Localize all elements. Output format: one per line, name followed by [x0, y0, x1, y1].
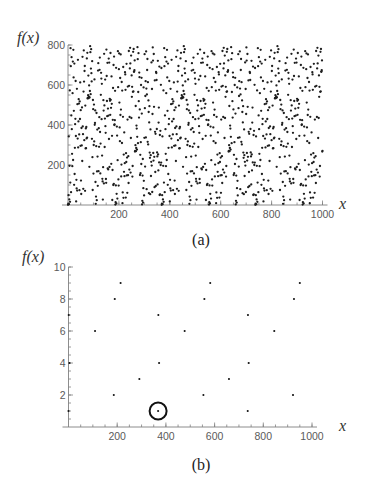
data-point — [120, 53, 122, 55]
data-point — [80, 109, 82, 111]
data-point — [214, 163, 216, 165]
data-point — [271, 104, 273, 106]
data-point — [194, 72, 196, 74]
data-point — [152, 46, 154, 48]
data-point — [197, 146, 199, 148]
data-point — [71, 128, 73, 130]
data-point — [100, 94, 102, 96]
data-point — [140, 163, 142, 165]
data-point — [82, 133, 84, 135]
data-point — [67, 194, 69, 196]
data-point — [247, 156, 249, 158]
data-point — [90, 67, 92, 69]
y-tick-label: 4 — [60, 357, 66, 369]
data-point — [239, 87, 241, 89]
data-point — [159, 130, 161, 132]
data-point — [117, 184, 119, 186]
data-point — [289, 180, 291, 182]
data-point — [175, 106, 177, 108]
data-point — [270, 80, 272, 82]
data-point — [76, 187, 78, 189]
data-point — [116, 134, 118, 136]
data-point — [309, 116, 311, 118]
data-point — [160, 67, 162, 69]
data-point — [149, 193, 151, 195]
data-point — [283, 199, 285, 201]
data-point — [247, 410, 249, 412]
data-point — [248, 133, 250, 135]
data-point — [282, 181, 284, 183]
data-point — [256, 201, 258, 203]
data-point — [147, 143, 149, 145]
data-point — [194, 118, 196, 120]
data-point — [154, 131, 156, 133]
data-point — [247, 106, 249, 108]
data-point — [276, 96, 278, 98]
data-point — [250, 155, 252, 157]
data-point — [291, 78, 293, 80]
data-point — [90, 72, 92, 74]
data-point — [309, 191, 311, 193]
data-point — [221, 50, 223, 52]
caption-b: (b) — [192, 456, 211, 474]
data-point — [232, 76, 234, 78]
data-point — [158, 362, 160, 364]
data-point — [235, 174, 237, 176]
data-point — [148, 105, 150, 107]
data-point — [277, 48, 279, 50]
x-tick-label: 200 — [110, 208, 128, 220]
data-point — [78, 189, 80, 191]
data-point — [231, 52, 233, 54]
data-point — [127, 155, 129, 157]
data-point — [203, 114, 205, 116]
data-point — [114, 119, 116, 121]
data-point — [281, 122, 283, 124]
data-point — [295, 57, 297, 59]
data-point — [98, 146, 100, 148]
data-point — [204, 103, 206, 105]
data-point — [300, 183, 302, 185]
data-point — [236, 180, 238, 182]
data-point — [211, 86, 213, 88]
data-point — [196, 182, 198, 184]
data-point — [152, 159, 154, 161]
data-point — [292, 132, 294, 134]
data-point — [165, 153, 167, 155]
data-point — [162, 198, 164, 200]
data-point — [116, 159, 118, 161]
data-point — [143, 194, 145, 196]
data-point — [274, 52, 276, 54]
data-point — [258, 153, 260, 155]
data-point — [183, 93, 185, 95]
data-point — [187, 122, 189, 124]
data-point — [133, 69, 135, 71]
data-point — [142, 187, 144, 189]
data-point — [157, 410, 159, 412]
data-point — [314, 118, 316, 120]
data-point — [280, 140, 282, 142]
data-point — [93, 103, 95, 105]
data-point — [276, 166, 278, 168]
data-point — [276, 90, 278, 92]
data-point — [254, 67, 256, 69]
data-point — [251, 121, 253, 123]
data-point — [241, 111, 243, 113]
data-point — [243, 154, 245, 156]
data-point — [262, 135, 264, 137]
data-point — [228, 378, 230, 380]
data-point — [183, 51, 185, 53]
data-point — [307, 175, 309, 177]
data-point — [257, 114, 259, 116]
data-point — [264, 59, 266, 61]
data-point — [108, 61, 110, 63]
data-point — [98, 69, 100, 71]
data-point — [275, 74, 277, 76]
data-point — [309, 66, 311, 68]
data-point — [113, 394, 115, 396]
data-point — [137, 58, 139, 60]
data-point — [79, 81, 81, 83]
data-point — [179, 147, 181, 149]
data-point — [115, 193, 117, 195]
data-point — [167, 147, 169, 149]
data-point — [309, 202, 311, 204]
